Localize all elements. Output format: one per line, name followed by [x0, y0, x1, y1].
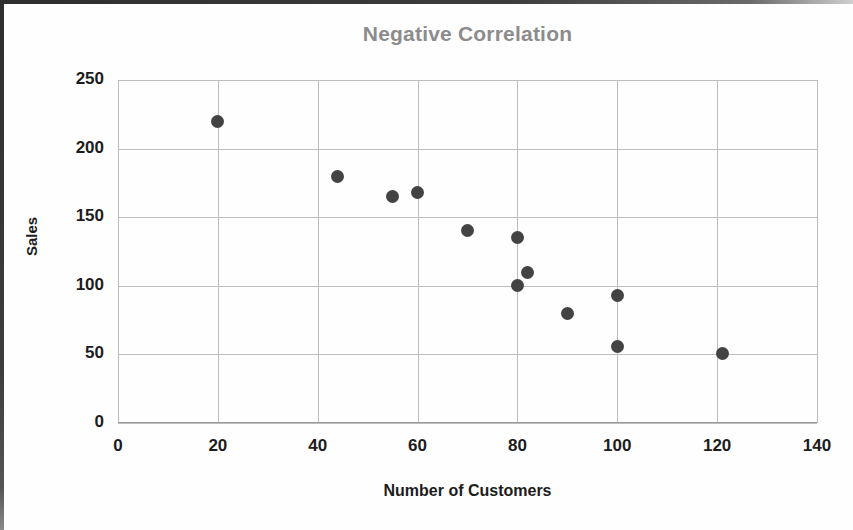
x-tick-label: 100 [603, 436, 631, 456]
scatter-chart: Negative Correlation 050100150200250 020… [0, 0, 853, 530]
chart-title: Negative Correlation [118, 22, 817, 46]
data-point [461, 224, 474, 237]
gridline-vertical [318, 80, 319, 423]
x-tick-label: 80 [508, 436, 527, 456]
x-tick-label: 120 [703, 436, 731, 456]
data-point [411, 186, 424, 199]
gridline-horizontal [118, 217, 817, 218]
data-point [611, 289, 624, 302]
x-tick-label: 0 [113, 436, 122, 456]
data-point [521, 266, 534, 279]
y-tick-label: 50 [85, 343, 104, 363]
data-point [511, 279, 524, 292]
x-tick-label: 140 [803, 436, 831, 456]
gridline-vertical [617, 80, 618, 423]
x-axis-tick-labels: 020406080100120140 [118, 436, 817, 460]
gridline-horizontal [118, 286, 817, 287]
x-axis-line [118, 422, 817, 423]
y-axis-title: Sales [23, 192, 40, 282]
gridline-horizontal [118, 80, 817, 81]
gridline-vertical [717, 80, 718, 423]
plot-area [118, 80, 817, 423]
x-tick-label: 40 [308, 436, 327, 456]
gridline-vertical [418, 80, 419, 423]
y-tick-label: 250 [76, 69, 104, 89]
data-point [561, 307, 574, 320]
x-tick-label: 60 [408, 436, 427, 456]
gridline-vertical [218, 80, 219, 423]
y-tick-label: 200 [76, 138, 104, 158]
data-point [331, 170, 344, 183]
gridline-horizontal [118, 423, 817, 424]
gridline-vertical [118, 80, 119, 423]
y-tick-label: 100 [76, 275, 104, 295]
data-point [716, 347, 729, 360]
data-point [511, 231, 524, 244]
gridline-vertical [817, 80, 818, 423]
data-point [611, 340, 624, 353]
data-point [386, 190, 399, 203]
gridline-horizontal [118, 149, 817, 150]
gridline-vertical [517, 80, 518, 423]
gridline-horizontal [118, 354, 817, 355]
x-axis-title: Number of Customers [118, 482, 817, 500]
data-point [211, 115, 224, 128]
y-tick-label: 0 [95, 412, 104, 432]
x-tick-label: 20 [208, 436, 227, 456]
y-tick-label: 150 [76, 206, 104, 226]
y-axis-tick-labels: 050100150200250 [48, 80, 104, 423]
